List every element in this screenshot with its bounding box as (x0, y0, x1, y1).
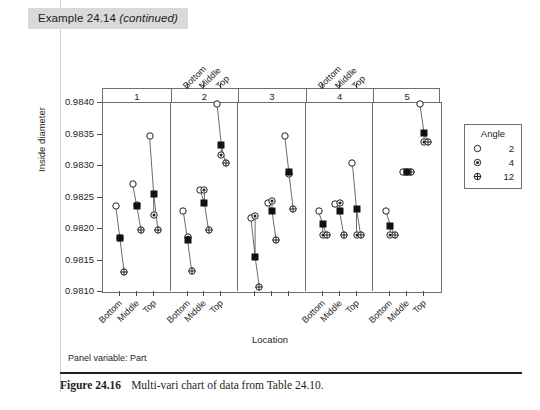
x-tick (220, 291, 221, 296)
panel-header-2: 2 (171, 89, 239, 103)
group-mean-marker (386, 221, 395, 230)
data-point-crosshair-circle (187, 267, 196, 276)
data-point-open-circle (382, 207, 391, 216)
group-mean-marker (403, 168, 412, 177)
figure-page: Example 24.14 (continued) Inside diamete… (0, 0, 540, 410)
x-tick (356, 291, 357, 296)
y-tick-label: 0.9825 (44, 191, 94, 202)
example-label: Example 24.14 (38, 12, 116, 24)
y-tick-label: 0.9810 (44, 285, 94, 296)
group-mean-marker (149, 189, 158, 198)
data-point-open-circle (213, 100, 222, 109)
data-point-crosshair-circle (221, 158, 230, 167)
x-tick (136, 291, 137, 296)
data-point-crosshair-circle (356, 231, 365, 240)
data-point-open-circle (314, 207, 323, 216)
panel-header-separator (238, 89, 239, 103)
group-mean-marker (200, 199, 209, 208)
figure-number: Figure 24.16 (60, 379, 121, 391)
data-point-dot-circle (335, 198, 344, 207)
example-header: Example 24.14 (continued) (28, 8, 188, 29)
y-tick-label: 0.9830 (44, 159, 94, 170)
data-point-crosshair-circle (390, 231, 399, 240)
legend-entry-4: 4 (469, 155, 517, 169)
example-continued-label: (continued) (119, 12, 178, 24)
data-point-crosshair-circle (322, 231, 331, 240)
data-point-open-circle (145, 131, 154, 140)
panel-variable-note: Panel variable: Part (68, 353, 147, 363)
data-point-dot-circle (200, 185, 209, 194)
group-mean-marker (335, 207, 344, 216)
plot-area (102, 102, 442, 293)
crosshair-circle-icon (469, 172, 485, 181)
panel-header-separator (171, 89, 172, 103)
group-mean-marker (284, 168, 293, 177)
group-mean-marker (132, 202, 141, 211)
group-mean-marker (115, 234, 124, 243)
group-mean-marker (217, 141, 226, 150)
x-tick (406, 291, 407, 296)
legend-entry-2: 2 (469, 141, 517, 155)
x-tick (153, 291, 154, 296)
panel-header-separator (306, 89, 307, 103)
y-tick-label: 0.9840 (44, 96, 94, 107)
legend: Angle 2412 (464, 124, 522, 189)
data-point-crosshair-circle (153, 226, 162, 235)
legend-entry-12: 12 (469, 169, 517, 183)
legend-entries: 2412 (469, 141, 517, 183)
x-tick (271, 291, 272, 296)
figure-caption-text: Multi-vari chart of data from Table 24.1… (131, 379, 324, 391)
group-mean-marker (251, 252, 260, 261)
panel-divider (170, 102, 171, 291)
caption-rule (60, 372, 522, 374)
data-point-crosshair-circle (120, 267, 129, 276)
x-tick (119, 291, 120, 296)
dot-circle-icon (469, 158, 485, 167)
data-point-dot-circle (149, 211, 158, 220)
data-point-open-circle (128, 180, 137, 189)
data-point-crosshair-circle (272, 236, 281, 245)
x-axis-title: Location (0, 334, 540, 345)
x-tick (389, 291, 390, 296)
y-tick-label: 0.9835 (44, 128, 94, 139)
data-point-open-circle (415, 100, 424, 109)
data-point-open-circle (179, 207, 188, 216)
panel-header-1: 1 (103, 89, 171, 103)
x-tick (339, 291, 340, 296)
data-point-crosshair-circle (289, 204, 298, 213)
x-tick (288, 291, 289, 296)
data-point-dot-circle (251, 212, 260, 221)
data-point-crosshair-circle (137, 226, 146, 235)
open-circle-icon (469, 144, 485, 153)
group-mean-marker (268, 207, 277, 216)
panel-divider (237, 102, 238, 291)
data-point-open-circle (348, 158, 357, 167)
multi-vari-chart: Inside diameter 0.98100.98150.98200.9825… (0, 40, 540, 350)
data-point-crosshair-circle (255, 282, 264, 291)
panel-header-strip: 12345 (102, 88, 440, 102)
x-tick (187, 291, 188, 296)
y-tick-label: 0.9815 (44, 254, 94, 265)
figure-caption: Figure 24.16Multi-vari chart of data fro… (60, 379, 324, 391)
x-tick (203, 291, 204, 296)
group-mean-marker (183, 235, 192, 244)
x-tick (322, 291, 323, 296)
data-point-crosshair-circle (339, 231, 348, 240)
data-point-crosshair-circle (204, 226, 213, 235)
panel-header-3: 3 (238, 89, 306, 103)
group-mean-marker (318, 219, 327, 228)
data-point-open-circle (111, 201, 120, 210)
group-mean-marker (352, 204, 361, 213)
data-point-dot-circle (268, 196, 277, 205)
data-point-open-circle (280, 131, 289, 140)
legend-entry-label: 12 (485, 171, 517, 182)
panel-header-separator (373, 89, 374, 103)
panel-divider (305, 102, 306, 291)
panel-header-5: 5 (373, 89, 441, 103)
panel-divider (372, 102, 373, 291)
x-tick (423, 291, 424, 296)
legend-entry-label: 4 (485, 157, 517, 168)
data-point-crosshair-circle (424, 138, 433, 147)
legend-entry-label: 2 (485, 143, 517, 154)
x-tick (254, 291, 255, 296)
